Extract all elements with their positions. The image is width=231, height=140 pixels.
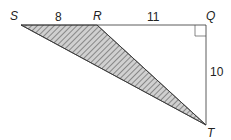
point-label-t: T — [207, 126, 216, 140]
point-label-s: S — [10, 9, 18, 23]
length-label-sr: 8 — [55, 10, 62, 24]
length-label-qt: 10 — [210, 65, 224, 79]
point-label-r: R — [93, 9, 102, 23]
length-label-rq: 11 — [147, 10, 160, 24]
right-angle-marker — [195, 25, 206, 36]
triangle-diagram: S 8 R 11 Q 10 T — [0, 0, 231, 140]
point-label-q: Q — [206, 9, 215, 23]
